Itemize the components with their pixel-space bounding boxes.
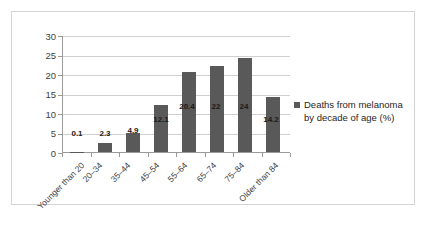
y-tick-label: 0 [30, 149, 56, 159]
legend-label: Deaths from melanoma by decade of age (%… [304, 99, 412, 125]
gridline-20 [62, 75, 290, 76]
bar-35-44 [126, 133, 140, 152]
x-tick-mark [148, 153, 149, 157]
gridline-10 [62, 114, 290, 115]
chart-legend: Deaths from melanoma by decade of age (%… [294, 99, 412, 125]
y-tick-label: 5 [30, 129, 56, 139]
bar-value-label: 12.1 [146, 116, 176, 124]
bar-20-34 [98, 143, 112, 152]
bar-older-than-84 [266, 97, 280, 152]
x-tick-mark [119, 153, 120, 157]
bar-value-label: 24 [229, 103, 259, 111]
y-tick-label: 15 [30, 90, 56, 100]
gridline-15 [62, 95, 290, 96]
bar-45-54 [154, 105, 168, 152]
x-tick-mark [62, 153, 63, 157]
bar-value-label: 20.4 [172, 103, 202, 111]
x-tick-mark [176, 153, 177, 157]
bar-value-label: 4.9 [118, 127, 148, 135]
x-tick-mark [262, 153, 263, 157]
x-tick-mark [205, 153, 206, 157]
bar-value-label: 14.2 [256, 116, 286, 124]
legend-swatch-icon [294, 102, 300, 108]
bar-value-label: 22 [201, 103, 231, 111]
bar-value-label: 2.3 [90, 130, 120, 138]
x-tick-mark [91, 153, 92, 157]
y-tick-label: 20 [30, 71, 56, 81]
bar-value-label: 0.1 [62, 130, 92, 138]
bar-55-64 [182, 72, 196, 152]
x-category-label-older-than-84: Older than 84 [217, 161, 280, 224]
x-tick-mark [233, 153, 234, 157]
y-tick-label: 10 [30, 110, 56, 120]
gridline-30 [62, 36, 290, 37]
y-tick-label: 30 [30, 32, 56, 42]
x-tick-mark [290, 153, 291, 157]
y-tick-label: 25 [30, 51, 56, 61]
chart-frame: 30 25 20 15 10 5 0 0.1 2.3 [11, 11, 415, 205]
gridline-25 [62, 56, 290, 57]
